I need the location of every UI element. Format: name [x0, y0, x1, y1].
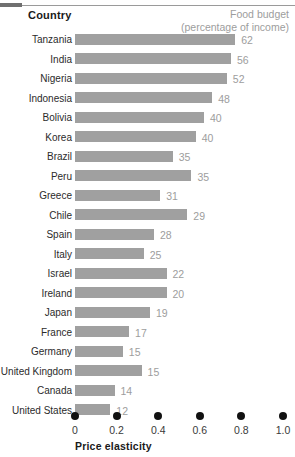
bar-category-label: Bolivia — [0, 112, 72, 123]
bar-row: Tanzania62 — [0, 32, 295, 52]
bar-category-label: Peru — [0, 171, 72, 182]
bar-category-label: France — [0, 327, 72, 338]
bar-value-label: 35 — [197, 171, 209, 183]
bar-category-label: United Kingdom — [0, 366, 72, 377]
x-axis-tick-label: 0.6 — [186, 424, 214, 436]
x-axis-tick-dot — [113, 412, 121, 420]
bar-value-label: 29 — [193, 210, 205, 222]
bar — [75, 268, 167, 279]
bar-value-label: 35 — [179, 151, 191, 163]
bar-value-label: 48 — [218, 93, 230, 105]
bar — [75, 326, 129, 337]
bar-category-label: Ireland — [0, 288, 72, 299]
bar-row: Nigeria52 — [0, 71, 295, 91]
bar-row: Japan19 — [0, 305, 295, 325]
x-axis: Price elasticity 00.20.40.60.81.0 — [0, 412, 295, 457]
bar — [75, 73, 227, 84]
x-axis-tick-label: 1.0 — [269, 424, 295, 436]
bar-value-label: 15 — [129, 346, 141, 358]
bar — [75, 92, 212, 103]
bar — [75, 385, 115, 396]
bar — [75, 131, 196, 142]
bar-row: Canada14 — [0, 383, 295, 403]
bar-value-label: 19 — [156, 307, 168, 319]
bar-category-label: Greece — [0, 190, 72, 201]
bar — [75, 307, 150, 318]
bar-category-label: Brazil — [0, 151, 72, 162]
bar-row: France17 — [0, 325, 295, 345]
top-rule-accent — [0, 3, 22, 7]
bar-row: Germany15 — [0, 344, 295, 364]
x-axis-tick-label: 0.8 — [227, 424, 255, 436]
bar-row: Ireland20 — [0, 286, 295, 306]
x-axis-tick-label: 0 — [61, 424, 89, 436]
bar — [75, 34, 235, 45]
bar — [75, 287, 167, 298]
x-axis-tick-dot — [196, 412, 204, 420]
bar — [75, 209, 187, 220]
bar — [75, 151, 173, 162]
bar-row: Chile29 — [0, 208, 295, 228]
bar-value-label: 62 — [241, 34, 253, 46]
bar-category-label: Israel — [0, 268, 72, 279]
bar-value-label: 28 — [160, 229, 172, 241]
column-header-country: Country — [28, 9, 72, 21]
bar-category-label: Germany — [0, 346, 72, 357]
bar-value-label: 17 — [135, 327, 147, 339]
bar-category-label: Indonesia — [0, 93, 72, 104]
bar-row: Greece31 — [0, 188, 295, 208]
bar-row: Bolivia40 — [0, 110, 295, 130]
bar-value-label: 31 — [166, 190, 178, 202]
bar-category-label: Nigeria — [0, 73, 72, 84]
bar-category-label: Canada — [0, 385, 72, 396]
bar — [75, 248, 144, 259]
bar-value-label: 22 — [173, 268, 185, 280]
bar-row: United Kingdom15 — [0, 364, 295, 384]
bar-category-label: Spain — [0, 229, 72, 240]
x-axis-tick-dot — [71, 412, 79, 420]
bar-value-label: 14 — [121, 385, 133, 397]
bar — [75, 190, 160, 201]
bar-category-label: Korea — [0, 132, 72, 143]
bar-category-label: Tanzania — [0, 34, 72, 45]
bar-value-label: 20 — [173, 288, 185, 300]
bar-value-label: 56 — [237, 54, 249, 66]
bar — [75, 346, 123, 357]
bar-row: Brazil35 — [0, 149, 295, 169]
bar-value-label: 40 — [202, 132, 214, 144]
bar-row: Spain28 — [0, 227, 295, 247]
column-header-food-budget: Food budget (percentage of income) — [109, 8, 289, 33]
x-axis-tick-label: 0.4 — [144, 424, 172, 436]
x-axis-tick-dot — [154, 412, 162, 420]
bar-chart: Tanzania62India56Nigeria52Indonesia48Bol… — [0, 32, 295, 422]
bar — [75, 53, 231, 64]
bar-row: Italy25 — [0, 247, 295, 267]
bar — [75, 170, 191, 181]
bar-value-label: 52 — [233, 73, 245, 85]
bar-row: Korea40 — [0, 130, 295, 150]
bar-row: Indonesia48 — [0, 91, 295, 111]
bar — [75, 365, 142, 376]
x-axis-title: Price elasticity — [75, 440, 152, 452]
bar-category-label: Japan — [0, 307, 72, 318]
bar-row: Israel22 — [0, 266, 295, 286]
x-axis-tick-dot — [237, 412, 245, 420]
bar-category-label: Italy — [0, 249, 72, 260]
top-rule — [0, 5, 295, 6]
x-axis-tick-label: 0.2 — [103, 424, 131, 436]
bar — [75, 229, 154, 240]
x-axis-tick-dot — [279, 412, 287, 420]
bar-row: Peru35 — [0, 169, 295, 189]
food-budget-header-line1: Food budget — [230, 8, 289, 20]
bar-value-label: 15 — [148, 366, 160, 378]
bar — [75, 112, 204, 123]
bar-value-label: 40 — [210, 112, 222, 124]
bar-category-label: India — [0, 54, 72, 65]
bar-value-label: 25 — [150, 249, 162, 261]
bar-row: India56 — [0, 52, 295, 72]
bar-category-label: Chile — [0, 210, 72, 221]
